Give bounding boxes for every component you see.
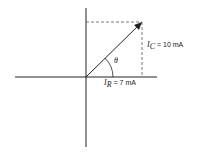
ir-label: IR = 7 mA [104, 78, 136, 89]
resultant-vector [86, 25, 139, 77]
theta-label: θ [114, 56, 118, 65]
theta-arc [105, 58, 113, 77]
ic-label: IC = 10 mA [147, 40, 183, 51]
